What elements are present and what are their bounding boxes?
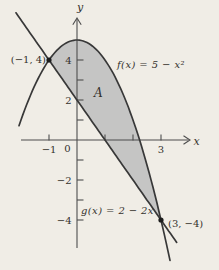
parabola-function-label: f(x) = 5 − x² [116,59,185,70]
y-axis-label: y [76,1,84,14]
x-tick-label: −1 [42,144,57,155]
y-tick-label: 4 [65,55,71,66]
intersection-dot [46,57,51,62]
point-label-neg1-4: (−1, 4) [11,54,46,65]
region-label: A [93,86,103,100]
intersection-dot [158,217,163,222]
figure-canvas: −13 42−2−4 y x 0 (−1, 4) (3, −4) f(x) = … [0,0,219,270]
x-axis-label: x [194,135,201,148]
origin-label: 0 [64,143,70,154]
line-function-label: g(x) = 2 − 2x [81,205,154,216]
y-tick-label: −4 [57,215,72,226]
y-tick-label: 2 [65,95,71,106]
y-tick-label: −2 [57,175,72,186]
x-tick-label: 3 [158,144,164,155]
point-label-3-neg4: (3, −4) [168,218,203,229]
figure-page: −13 42−2−4 y x 0 (−1, 4) (3, −4) f(x) = … [0,0,219,270]
